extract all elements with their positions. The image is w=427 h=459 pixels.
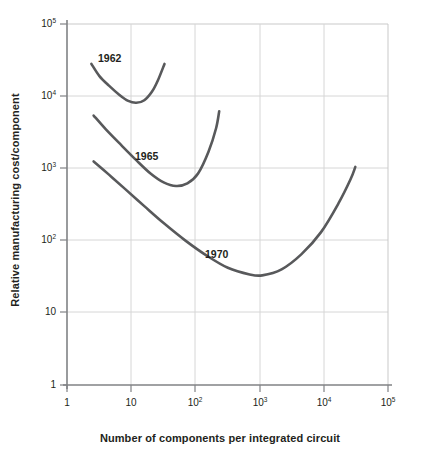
curve-label-1962: 1962	[98, 52, 121, 64]
x-axis-title-container: Number of components per integrated circ…	[30, 428, 410, 446]
y-tick-label-100: 102	[30, 234, 56, 245]
x-tick-label-1000: 103	[245, 397, 275, 408]
y-tick-label-10000: 104	[30, 90, 56, 101]
vertical-gridlines	[131, 24, 388, 385]
plot-area	[0, 0, 427, 459]
x-tick-marks	[67, 385, 388, 392]
y-axis-title: Relative manufacturing cost/component	[9, 93, 21, 306]
curve-1962	[91, 64, 164, 103]
x-axis-title: Number of components per integrated circ…	[100, 432, 340, 444]
y-tick-label-100000: 105	[30, 18, 56, 29]
curve-label-1965: 1965	[135, 150, 158, 162]
y-axis-title-container: Relative manufacturing cost/component	[0, 0, 30, 400]
x-tick-label-10: 10	[116, 397, 146, 408]
y-tick-marks	[60, 24, 67, 385]
x-tick-label-100000: 105	[373, 397, 403, 408]
x-tick-label-10000: 104	[309, 397, 339, 408]
y-tick-label-1000: 103	[30, 162, 56, 173]
x-tick-label-100: 102	[180, 397, 210, 408]
y-tick-label-10: 10	[30, 306, 56, 317]
chart-figure: Relative manufacturing cost/component	[0, 0, 427, 459]
x-tick-label-1: 1	[52, 397, 82, 408]
curve-label-1970: 1970	[205, 248, 228, 260]
curve-1965	[94, 111, 220, 186]
y-tick-label-1: 1	[30, 379, 56, 390]
